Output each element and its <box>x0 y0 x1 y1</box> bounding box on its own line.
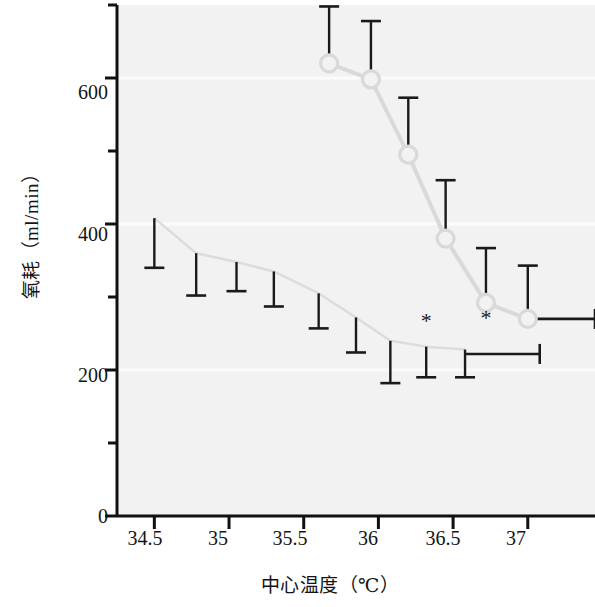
plot-background <box>117 5 595 516</box>
y-tick-400: 400 <box>40 224 108 244</box>
x-tick-36-5: 36.5 <box>408 528 478 548</box>
x-tick-34-5: 34.5 <box>110 528 180 548</box>
x-tick-35-5: 35.5 <box>255 528 325 548</box>
oxygen-consumption-chart: 氧耗（ml/min） 中心温度（℃） 0 200 400 600 34.5 35… <box>0 0 595 607</box>
x-axis-title: 中心温度（℃） <box>120 570 540 597</box>
y-axis-title: 氧耗（ml/min） <box>16 107 43 357</box>
y-tick-200: 200 <box>40 365 108 385</box>
x-tick-36: 36 <box>333 528 403 548</box>
y-tick-0: 0 <box>40 506 108 526</box>
x-tick-35: 35 <box>183 528 253 548</box>
y-tick-600: 600 <box>40 82 108 102</box>
x-tick-37: 37 <box>481 528 551 548</box>
significance-asterisk: * <box>421 308 432 333</box>
significance-asterisk: * <box>480 305 491 330</box>
